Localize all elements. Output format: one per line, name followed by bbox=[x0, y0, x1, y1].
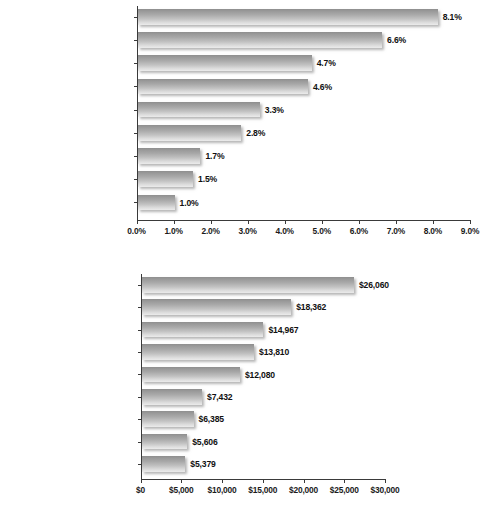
bar bbox=[142, 299, 292, 315]
bar-value-label: 6.6% bbox=[387, 35, 406, 45]
x-axis-tick bbox=[137, 220, 138, 224]
y-axis-tick bbox=[138, 397, 141, 398]
bar-value-label: $6,385 bbox=[199, 414, 224, 424]
percentage-bar-chart: Software Publishing and Internet Service… bbox=[0, 0, 497, 250]
x-axis-tick bbox=[344, 479, 345, 483]
y-axis-tick bbox=[134, 110, 137, 111]
bar bbox=[138, 9, 438, 25]
bar bbox=[138, 79, 308, 95]
bar-value-label: $13,810 bbox=[259, 347, 289, 357]
dollar-bar-chart: Banking and FinanceSoftware Publishing a… bbox=[0, 265, 497, 515]
x-axis-tick bbox=[141, 479, 142, 483]
x-axis-tick bbox=[211, 220, 212, 224]
bar bbox=[138, 55, 312, 71]
bar bbox=[142, 344, 255, 360]
y-axis-tick bbox=[134, 179, 137, 180]
y-axis-tick bbox=[134, 156, 137, 157]
x-axis-tick bbox=[304, 479, 305, 483]
bar-value-label: $12,080 bbox=[245, 370, 275, 380]
bar bbox=[138, 102, 260, 118]
bar bbox=[142, 434, 188, 450]
y-axis-tick bbox=[134, 40, 137, 41]
y-axis-tick bbox=[138, 419, 141, 420]
y-axis-tick bbox=[138, 442, 141, 443]
bar-value-label: $26,060 bbox=[359, 280, 389, 290]
bar bbox=[138, 171, 194, 187]
y-axis-tick bbox=[134, 86, 137, 87]
y-axis-tick bbox=[138, 352, 141, 353]
y-axis-tick bbox=[138, 285, 141, 286]
bar-value-label: 8.1% bbox=[443, 12, 462, 22]
x-axis-tick bbox=[433, 220, 434, 224]
bar-value-label: 1.7% bbox=[205, 151, 224, 161]
bar-value-label: 2.8% bbox=[246, 128, 265, 138]
x-axis-tick bbox=[181, 479, 182, 483]
bar-value-label: $14,967 bbox=[268, 325, 298, 335]
bar bbox=[142, 277, 354, 293]
bar-value-label: $7,432 bbox=[207, 392, 232, 402]
y-axis-tick bbox=[138, 464, 141, 465]
y-axis-tick bbox=[134, 17, 137, 18]
y-axis-tick bbox=[134, 133, 137, 134]
bar-value-label: $18,362 bbox=[296, 302, 326, 312]
bar bbox=[138, 148, 201, 164]
bar bbox=[142, 456, 186, 472]
bar-value-label: $5,379 bbox=[190, 459, 215, 469]
bar bbox=[138, 125, 242, 141]
x-axis-tick bbox=[322, 220, 323, 224]
bar bbox=[138, 32, 383, 48]
x-axis-tick-label: $30,000 bbox=[345, 485, 425, 495]
x-axis-tick bbox=[385, 479, 386, 483]
y-axis-tick bbox=[134, 202, 137, 203]
x-axis-tick bbox=[359, 220, 360, 224]
x-axis-line bbox=[137, 220, 471, 221]
bar-value-label: 3.3% bbox=[265, 105, 284, 115]
y-axis-tick bbox=[138, 330, 141, 331]
x-axis-tick bbox=[285, 220, 286, 224]
bar-value-label: 4.6% bbox=[313, 82, 332, 92]
y-axis-tick bbox=[138, 374, 141, 375]
bar-value-label: 4.7% bbox=[317, 58, 336, 68]
y-axis-tick bbox=[134, 63, 137, 64]
bar bbox=[142, 411, 194, 427]
bar bbox=[138, 195, 175, 211]
bar bbox=[142, 389, 203, 405]
bar-value-label: 1.5% bbox=[198, 174, 217, 184]
x-axis-tick bbox=[248, 220, 249, 224]
x-axis-tick-label: 9.0% bbox=[430, 226, 497, 236]
x-axis-tick bbox=[470, 220, 471, 224]
y-axis-tick bbox=[138, 307, 141, 308]
x-axis-tick bbox=[396, 220, 397, 224]
bar bbox=[142, 367, 240, 383]
x-axis-tick bbox=[222, 479, 223, 483]
bar bbox=[142, 322, 264, 338]
x-axis-tick bbox=[174, 220, 175, 224]
x-axis-tick bbox=[263, 479, 264, 483]
bar-value-label: $5,606 bbox=[192, 437, 217, 447]
bar-value-label: 1.0% bbox=[180, 198, 199, 208]
